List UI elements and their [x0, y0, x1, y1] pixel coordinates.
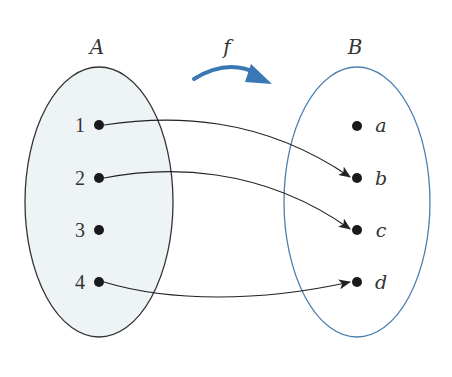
set-a-ellipse	[25, 67, 173, 337]
dot-2	[94, 173, 104, 183]
svg-text:c: c	[376, 219, 387, 241]
dot-a	[352, 121, 362, 131]
dot-c	[352, 225, 362, 235]
svg-text:2: 2	[75, 167, 85, 189]
set-b-ellipse	[284, 67, 430, 337]
svg-text:d: d	[375, 271, 387, 293]
dot-3	[94, 225, 104, 235]
set-b-title: B	[347, 35, 363, 59]
dot-4	[94, 277, 104, 287]
function-mapping-diagram: A f B 1 2 3 4 a b c d	[0, 0, 452, 377]
function-label: f	[221, 35, 234, 59]
set-a-title: A	[88, 35, 104, 59]
dot-1	[94, 120, 104, 130]
dot-d	[352, 277, 362, 287]
svg-text:1: 1	[75, 114, 85, 136]
function-arrow-icon	[194, 64, 272, 84]
svg-text:a: a	[375, 114, 386, 136]
svg-text:4: 4	[75, 271, 85, 293]
svg-text:3: 3	[75, 219, 85, 241]
svg-text:b: b	[375, 167, 387, 189]
dot-b	[352, 173, 362, 183]
